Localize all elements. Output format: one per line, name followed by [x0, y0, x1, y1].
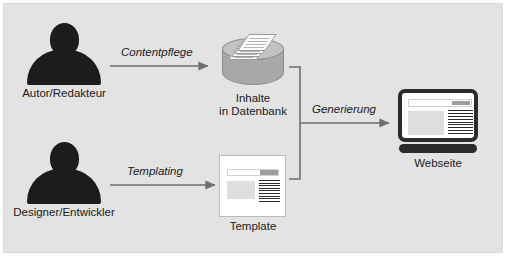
- wireframe-sidebar-block: [227, 181, 255, 199]
- monitor-screen: [406, 97, 470, 134]
- monitor-icon: [398, 89, 478, 153]
- person-shoulders-icon: [27, 50, 101, 85]
- edge-label-templating: Templating: [127, 165, 183, 177]
- node-label-designer: Designer/Entwickler: [3, 206, 129, 220]
- person-silhouette-designer: [25, 142, 103, 204]
- node-label-datenbank-line1: Inhalte: [200, 92, 306, 106]
- template-page-icon: [219, 155, 286, 217]
- node-label-datenbank-line2: in Datenbank: [200, 105, 306, 119]
- wireframe-header-block: [260, 170, 278, 175]
- person-silhouette-autor: [25, 23, 103, 85]
- document-sheet: [237, 34, 276, 51]
- document-stack-icon: [234, 34, 276, 60]
- wireframe-text-lines: [259, 180, 280, 202]
- node-label-template: Template: [200, 220, 306, 234]
- edge-label-generierung: Generierung: [312, 103, 376, 115]
- website-text-lines: [448, 110, 473, 137]
- node-label-webseite: Webseite: [386, 157, 490, 171]
- diagram-panel: Autor/Redakteur Designer/Entwickler: [3, 3, 503, 253]
- monitor-base: [399, 144, 477, 153]
- database-cylinder-icon: [222, 38, 284, 90]
- edge-label-contentpflege: Contentpflege: [121, 46, 193, 58]
- bracket-merge: [289, 67, 300, 179]
- website-sidebar-block: [408, 111, 444, 135]
- node-label-autor: Autor/Redakteur: [11, 87, 117, 101]
- person-shoulders-icon: [27, 169, 101, 204]
- monitor-frame: [398, 89, 478, 142]
- website-header-block: [452, 101, 470, 105]
- diagram-canvas: Autor/Redakteur Designer/Entwickler: [0, 0, 506, 265]
